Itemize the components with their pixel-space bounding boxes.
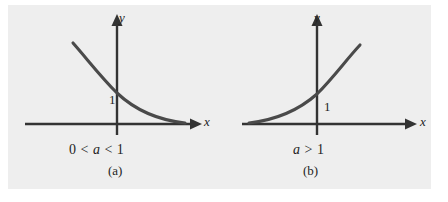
panel-a-y-axis-label: y [119, 11, 125, 24]
panel-b-caption: (b) [303, 164, 318, 177]
panel-b-x-axis-label: x [420, 115, 426, 128]
panel-b-y-tick-1: 1 [324, 100, 331, 113]
panel-a-condition-lower: 0 < [69, 142, 89, 157]
panel-a-caption: (a) [108, 164, 122, 177]
panel-a-y-axis [112, 14, 123, 135]
panel-b-growing-exponential: y x 1 a > 1 (b) [239, 0, 448, 184]
panel-a-condition-label: 0 < a < 1 [69, 143, 124, 157]
panel-a-y-tick-1: 1 [109, 93, 116, 106]
panel-b-y-axis-label: y [314, 11, 320, 24]
panel-b-plot-area [239, 0, 448, 184]
exponential-functions-figure: y x 1 0 < a < 1 (a) y x 1 a > 1 (b) [0, 0, 448, 202]
panel-a-condition-upper: < 1 [104, 142, 124, 157]
panel-b-condition-relation: > 1 [305, 142, 325, 157]
panel-a-x-axis-label: x [204, 115, 210, 128]
panel-a-condition-variable: a [93, 142, 101, 157]
panel-a-plot-area [22, 0, 234, 184]
panel-a-decaying-exponential: y x 1 0 < a < 1 (a) [22, 0, 234, 184]
panel-b-x-axis-arrowhead [405, 119, 417, 130]
panel-b-curve [249, 45, 360, 123]
panel-a-x-axis-arrowhead [190, 119, 202, 130]
panel-b-y-axis [312, 14, 323, 135]
panel-b-condition-label: a > 1 [293, 143, 324, 157]
panel-b-condition-variable: a [293, 142, 301, 157]
panel-a-curve [73, 43, 185, 123]
